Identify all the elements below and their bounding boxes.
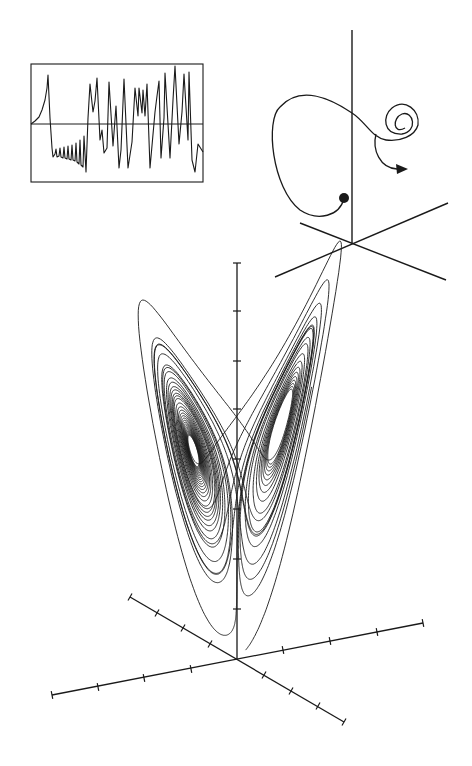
inset-axes — [275, 30, 448, 280]
axis-tick-mark — [97, 683, 99, 691]
axis-tick-mark — [422, 619, 424, 627]
axis-tick-mark — [51, 691, 53, 699]
lorenz-attractor-main — [51, 241, 424, 725]
axis-tick-mark — [128, 594, 132, 601]
lorenz-figure: Lorenz attractor — [0, 0, 472, 766]
axis-tick-mark — [376, 628, 378, 636]
start-point-dot — [339, 193, 349, 203]
figure-canvas — [0, 0, 472, 766]
axis-tick-mark — [143, 674, 145, 682]
main-axes — [51, 263, 424, 725]
axis-tick-mark — [342, 719, 346, 726]
arrowhead-icon — [396, 164, 408, 174]
inset-axis-2 — [300, 223, 446, 280]
trajectory-inset — [272, 30, 448, 280]
axis-tick-mark — [282, 646, 284, 654]
inset-axis-1 — [275, 203, 448, 277]
attractor-trajectory — [138, 241, 341, 650]
axis-tick-mark — [181, 625, 185, 632]
axis-tick-mark — [289, 688, 293, 695]
axis-tick-mark — [190, 665, 192, 673]
time-series-line — [31, 66, 203, 172]
axis-tick-mark — [329, 637, 331, 645]
time-series-inset — [31, 64, 203, 182]
